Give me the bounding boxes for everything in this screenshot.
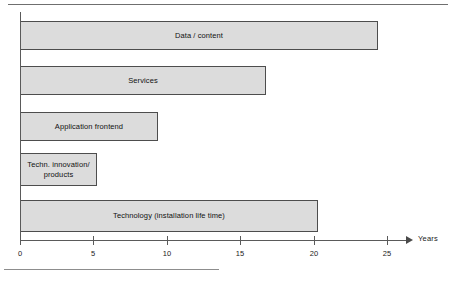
tick-label-25: 25 xyxy=(372,249,402,258)
tick-label-20: 20 xyxy=(299,249,329,258)
tick-label-15: 15 xyxy=(225,249,255,258)
bar-label-services: Services xyxy=(125,76,161,85)
horizontal-axis-line xyxy=(20,240,408,241)
bar-services: Services xyxy=(20,66,266,95)
figure-container: Data / content Services Application fron… xyxy=(0,0,455,283)
tick-mark-20 xyxy=(314,236,315,245)
bar-technology-installation-life-time: Technology (installation life time) xyxy=(20,200,318,232)
figure-caption xyxy=(6,273,246,282)
tick-mark-0 xyxy=(20,236,21,245)
bar-data-content: Data / content xyxy=(20,21,378,50)
tick-mark-5 xyxy=(93,236,94,245)
bar-label-application-frontend: Application frontend xyxy=(52,122,126,131)
tick-label-5: 5 xyxy=(78,249,108,258)
bar-techn-innovation-products: Techn. innovation/ products xyxy=(20,153,97,186)
bottom-divider-rule xyxy=(4,269,219,270)
bar-label-data-content: Data / content xyxy=(172,31,226,40)
tick-mark-15 xyxy=(240,236,241,245)
axis-arrow-icon xyxy=(406,236,413,244)
tick-label-10: 10 xyxy=(152,249,182,258)
tick-label-0: 0 xyxy=(5,249,35,258)
bar-application-frontend: Application frontend xyxy=(20,112,158,141)
tick-mark-10 xyxy=(167,236,168,245)
bar-label-techn-innovation-line1: Techn. innovation/ xyxy=(24,160,92,169)
bar-label-techn-innovation-line2: products xyxy=(41,170,77,179)
axis-title-years: Years xyxy=(418,234,438,243)
vertical-axis-line xyxy=(20,12,21,241)
tick-mark-25 xyxy=(387,236,388,245)
bar-label-technology: Technology (installation life time) xyxy=(110,211,228,220)
bar-chart-plot-area: Data / content Services Application fron… xyxy=(0,0,455,283)
